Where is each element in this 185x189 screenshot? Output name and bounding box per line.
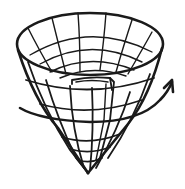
cone-rim [17, 13, 163, 75]
cone-inner-back-wall [30, 37, 152, 78]
cone-net-drawing [0, 0, 185, 189]
cone-front-latitudes [26, 78, 154, 162]
cone-net-diagram [0, 0, 185, 189]
cone-apex [87, 172, 90, 175]
